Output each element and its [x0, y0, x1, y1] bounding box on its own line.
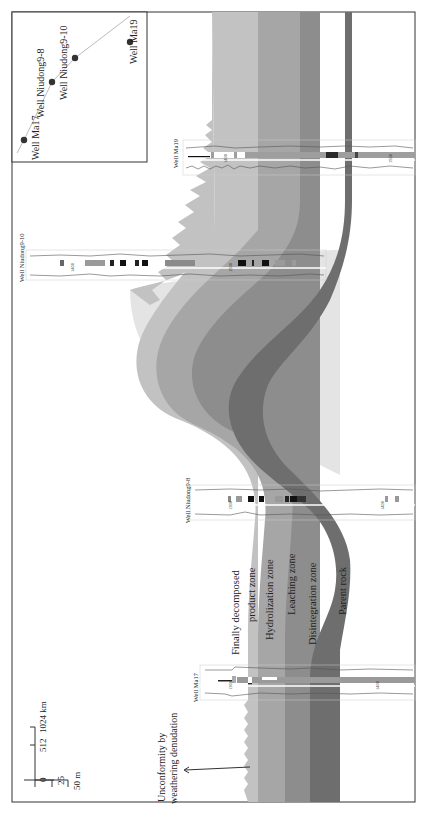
annotation-line-2: weathering denudation	[168, 713, 179, 804]
figure: .r{position:absolute;transform-origin:0 …	[0, 0, 422, 815]
well-label-ma17: Well Ma17	[192, 673, 199, 702]
well-label-niudong9-10: Well Niudong9-10	[18, 234, 25, 282]
scale-label-1024km: 1024 km	[38, 701, 48, 733]
scale-label-0: 0	[38, 778, 48, 783]
inset-label-ma19: Well Ma19	[128, 20, 139, 64]
zone-label-finally-decomposed: Finally decomposed	[230, 570, 241, 655]
well-label-ma19: Well Ma19	[172, 139, 179, 168]
depth-niudong9-8-2: 1400	[380, 501, 385, 510]
scale-label-50m: 50 m	[72, 772, 82, 790]
zone-label-disintegration: Disintegration zone	[307, 562, 318, 645]
depth-niudong9-8-1: 1300	[228, 501, 233, 510]
depth-ma17-1: 1300	[228, 681, 233, 690]
inset-label-ma17: Well Ma17	[30, 116, 41, 160]
depth-niudong9-10-1: 1400	[70, 263, 75, 272]
zone-label-leaching: Leaching zone	[286, 553, 297, 615]
annotation-line-1: Unconformity by	[156, 733, 167, 802]
zone-label-parent-rock: Parent rock	[337, 567, 348, 615]
scale-label-512: 512	[38, 739, 48, 753]
depth-ma17-2: 1400	[375, 681, 380, 690]
inset-dot-niudong9-8	[49, 79, 55, 85]
zone-label-hydrolization: Hydrolization zone	[264, 559, 275, 640]
scale-label-25: 25	[56, 776, 66, 785]
depth-ma19-1: 1400	[223, 154, 228, 163]
inset-dot-ma17	[21, 137, 27, 143]
inset-dot-niudong9-10	[72, 55, 78, 61]
inset-label-niudong9-10: Well Niudong9-10	[58, 26, 69, 100]
depth-ma19-2: 1500	[388, 154, 393, 163]
cross-section-svg	[0, 0, 422, 815]
well-label-niudong9-8: Well Niudong9-8	[184, 478, 191, 523]
zone-label-finally-decomposed-2: product zone	[246, 567, 257, 622]
depth-niudong9-10-2: 1500	[228, 263, 233, 272]
inset-label-niudong9-8: Well Niudong9-8	[35, 49, 46, 118]
